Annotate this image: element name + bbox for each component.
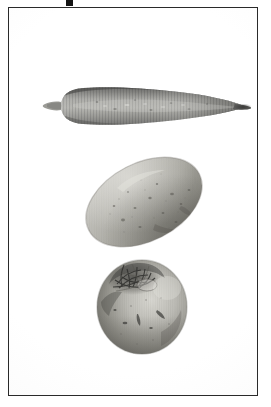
plate-frame xyxy=(8,7,258,396)
carrot-image xyxy=(39,76,251,138)
specimen-potato xyxy=(77,146,211,258)
carrot-body xyxy=(39,76,251,138)
potato-body xyxy=(77,146,211,258)
turnip-image xyxy=(91,254,193,358)
specimen-turnip xyxy=(91,254,193,358)
potato-image xyxy=(77,146,211,258)
registration-mark-icon xyxy=(66,0,73,6)
specimen-carrot xyxy=(39,76,251,138)
turnip-body xyxy=(91,254,193,358)
specimen-plate: Carrot Potato Turnip Vegetable specimen … xyxy=(0,0,271,407)
